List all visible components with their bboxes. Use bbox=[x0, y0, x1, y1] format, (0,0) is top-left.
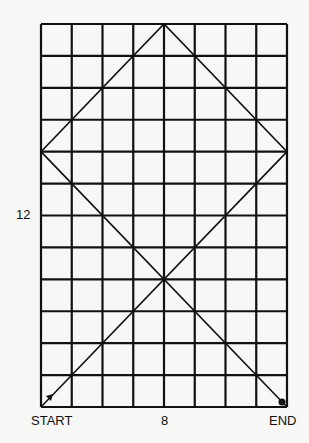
path-markers bbox=[46, 394, 286, 406]
start-label: START bbox=[31, 413, 72, 428]
end-dot-icon bbox=[279, 399, 286, 406]
width-label: 8 bbox=[161, 413, 168, 428]
grid-path-diagram bbox=[0, 0, 309, 443]
end-label: END bbox=[269, 413, 296, 428]
grid bbox=[41, 24, 287, 407]
height-label: 12 bbox=[16, 207, 30, 222]
